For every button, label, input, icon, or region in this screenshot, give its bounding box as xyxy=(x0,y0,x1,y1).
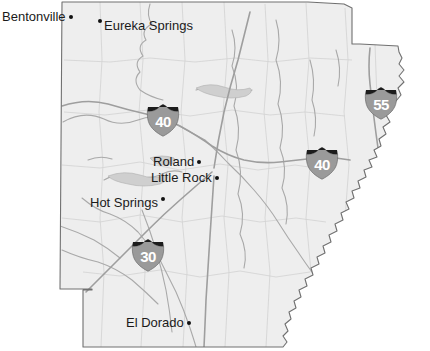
city-marker-dot xyxy=(69,15,73,19)
city-name-eureka-springs: Eureka Springs xyxy=(104,18,193,33)
city-label-little-rock[interactable]: Little Rock xyxy=(151,171,219,185)
city-marker-dot xyxy=(197,160,201,164)
interstate-shield-55[interactable]: 55 xyxy=(362,86,400,120)
city-label-eureka-springs[interactable]: Eureka Springs xyxy=(98,19,193,33)
city-label-hot-springs[interactable]: Hot Springs xyxy=(90,196,165,210)
interstate-shield-number: 55 xyxy=(362,97,400,113)
interstate-shield-number: 40 xyxy=(303,157,341,173)
city-label-bentonville[interactable]: Bentonville xyxy=(2,10,73,24)
interstate-shield-40-west[interactable]: 40 xyxy=(144,103,182,137)
city-name-roland: Roland xyxy=(153,154,194,169)
interstate-shield-30[interactable]: 30 xyxy=(129,238,167,272)
city-marker-dot xyxy=(98,19,102,23)
city-marker-dot xyxy=(161,197,165,201)
city-name-little-rock: Little Rock xyxy=(151,170,212,185)
city-label-el-dorado[interactable]: El Dorado xyxy=(126,316,191,330)
city-marker-dot xyxy=(187,321,191,325)
interstate-shield-40-east[interactable]: 40 xyxy=(303,146,341,180)
city-name-bentonville: Bentonville xyxy=(2,9,66,24)
map-canvas: Bentonville Eureka Springs Roland Little… xyxy=(0,0,430,351)
interstate-shield-number: 30 xyxy=(129,249,167,265)
city-marker-dot xyxy=(215,176,219,180)
city-label-roland[interactable]: Roland xyxy=(153,155,201,169)
city-name-el-dorado: El Dorado xyxy=(126,315,184,330)
city-name-hot-springs: Hot Springs xyxy=(90,195,158,210)
interstate-shield-number: 40 xyxy=(144,114,182,130)
